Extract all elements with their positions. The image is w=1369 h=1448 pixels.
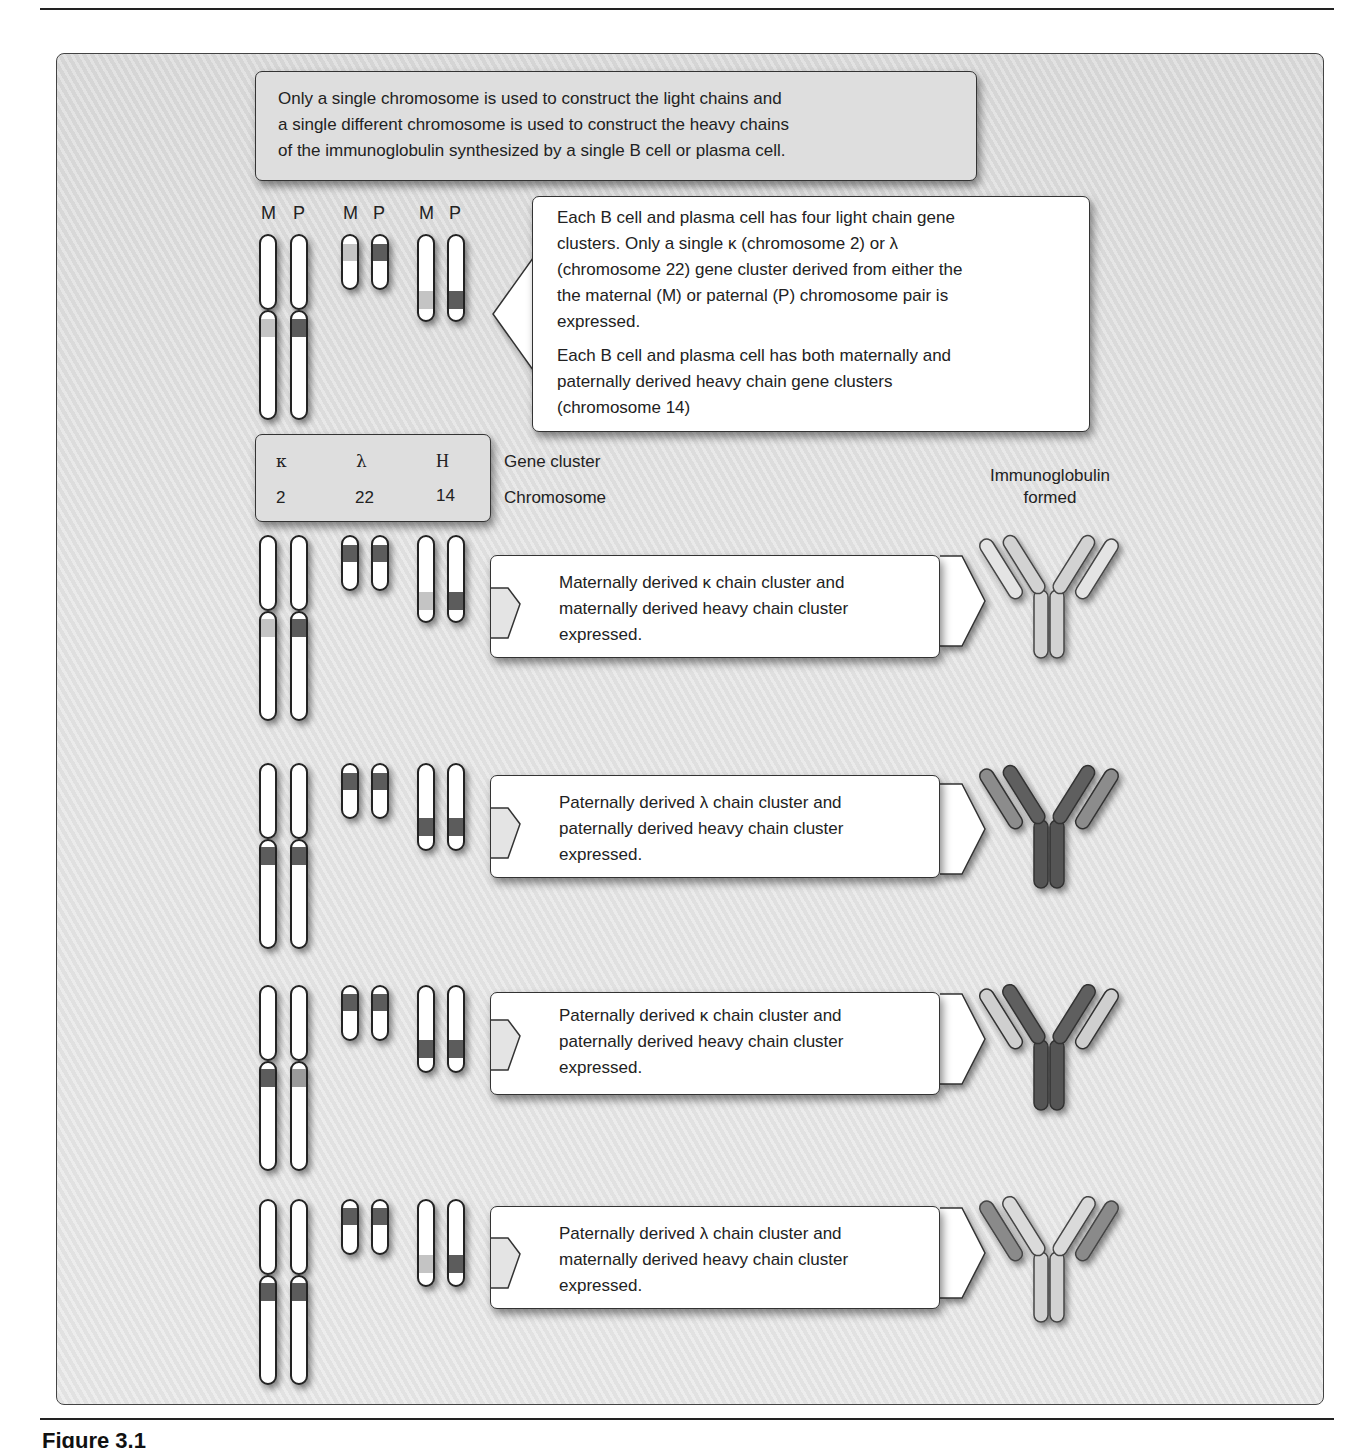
info-para2-line-1: Each B cell and plasma cell has both mat… — [557, 343, 1089, 369]
scenario-4-line-3: expressed. — [559, 1273, 939, 1299]
scenario-4-line-2: maternally derived heavy chain cluster — [559, 1247, 939, 1273]
info-para1-line-2: clusters. Only a single κ (chromosome 2)… — [557, 231, 1089, 257]
antibody-scenario-3 — [977, 982, 1121, 1110]
info-para1-line-1: Each B cell and plasma cell has four lig… — [557, 205, 1089, 231]
info-arrow-left-icon — [493, 258, 533, 370]
gene-cluster-label: Gene cluster — [504, 449, 600, 475]
info-para2-line-2: paternally derived heavy chain gene clus… — [557, 369, 1089, 395]
scenario-box-3: Paternally derived κ chain cluster and p… — [490, 992, 940, 1095]
bottom-rule — [40, 1418, 1334, 1420]
info-para1-line-5: expressed. — [557, 309, 1089, 335]
antibody-scenario-1 — [977, 533, 1121, 658]
figure-caption: Figure 3.1 — [42, 1428, 146, 1448]
scenario-3-line-1: Paternally derived κ chain cluster and — [559, 1003, 939, 1029]
info-para2-line-3: (chromosome 14) — [557, 395, 1089, 421]
antibody-scenario-4 — [977, 1194, 1121, 1322]
info-box: Each B cell and plasma cell has four lig… — [532, 196, 1090, 432]
immunoglobulin-header-line-1: Immunoglobulin — [970, 465, 1130, 487]
info-para1-line-3: (chromosome 22) gene cluster derived fro… — [557, 257, 1089, 283]
immunoglobulin-header-line-2: formed — [970, 487, 1130, 509]
legend-heavy: H — [436, 448, 449, 474]
scenario-box-1: Maternally derived κ chain cluster and m… — [490, 555, 940, 658]
chromosome-set-reference — [260, 235, 464, 419]
scenario-box-4: Paternally derived λ chain cluster and m… — [490, 1206, 940, 1309]
scenario-3-line-3: expressed. — [559, 1055, 939, 1081]
scenario-2-line-3: expressed. — [559, 842, 939, 868]
scenario-box-2: Paternally derived λ chain cluster and p… — [490, 775, 940, 878]
legend-lambda: λ — [356, 448, 367, 474]
chromosome-set-scenario-1 — [260, 536, 464, 720]
chromosome-set-scenario-4 — [260, 1200, 464, 1384]
legend-chr-14: 14 — [436, 483, 455, 509]
immunoglobulin-header: Immunoglobulin formed — [970, 465, 1130, 509]
scenario-1-line-2: maternally derived heavy chain cluster — [559, 596, 939, 622]
scenario-1-line-1: Maternally derived κ chain cluster and — [559, 570, 939, 596]
scenario-3-line-2: paternally derived heavy chain cluster — [559, 1029, 939, 1055]
legend-chr-22: 22 — [355, 485, 374, 511]
chromosome-set-scenario-2 — [260, 764, 464, 948]
chromosome-label: Chromosome — [504, 485, 606, 511]
scenario-4-line-1: Paternally derived λ chain cluster and — [559, 1221, 939, 1247]
scenario-1-line-3: expressed. — [559, 622, 939, 648]
legend-kappa: κ — [276, 448, 287, 474]
info-para1-line-4: the maternal (M) or paternal (P) chromos… — [557, 283, 1089, 309]
chromosome-set-scenario-3 — [260, 986, 464, 1170]
scenario-2-line-2: paternally derived heavy chain cluster — [559, 816, 939, 842]
scenario-2-line-1: Paternally derived λ chain cluster and — [559, 790, 939, 816]
legend-chr-2: 2 — [276, 485, 285, 511]
antibody-scenario-2 — [977, 763, 1121, 888]
